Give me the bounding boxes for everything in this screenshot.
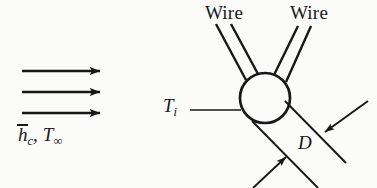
wire-left-outer-line (216, 24, 246, 80)
dimension-extension-line-upper (285, 101, 346, 163)
dimension-arrow-upper (325, 101, 368, 132)
dimension-arrow-lower (253, 157, 286, 188)
wire-right (274, 26, 311, 82)
wire-left-inner-line (231, 24, 258, 74)
bead-temperature-subscript: i (174, 105, 177, 119)
wire-label-right: Wire (290, 3, 328, 22)
diameter-label: D (298, 133, 312, 152)
thermocouple-flow-figure: Wire Wire Ti D hc,T∞ (0, 0, 377, 188)
bead-temperature-symbol: T (163, 95, 174, 116)
flow-conditions-label: hc,T∞ (18, 124, 62, 148)
wire-right-inner-line (274, 26, 298, 75)
flow-arrow-group (22, 71, 100, 113)
figure-drawing-canvas (0, 0, 377, 188)
bead-temperature-label: Ti (163, 96, 177, 119)
flow-temperature-subscript: ∞ (53, 134, 62, 148)
thermocouple-bead (240, 73, 290, 123)
flow-coefficient-symbol: h (18, 124, 28, 144)
flow-temperature-symbol: T (43, 124, 54, 145)
wire-label-left: Wire (205, 3, 243, 22)
wire-right-outer-line (286, 26, 311, 82)
flow-label-separator: , (33, 124, 38, 145)
wire-left (216, 24, 258, 80)
